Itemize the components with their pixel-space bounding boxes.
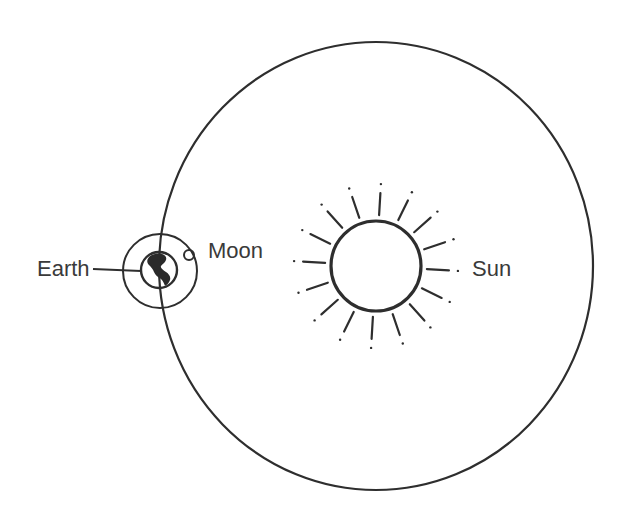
sun-ray — [422, 288, 442, 298]
earth-label: Earth — [37, 256, 90, 281]
sun-ray-dot — [301, 229, 303, 231]
sun-rays — [293, 183, 459, 349]
earth-moon-sun-diagram: Sun Earth Moon — [0, 0, 621, 518]
sun-ray — [393, 314, 400, 335]
sun-ray-dot — [402, 342, 404, 344]
sun-ray-dot — [449, 301, 451, 303]
sun-ray — [352, 197, 359, 218]
sun-ray — [427, 269, 449, 270]
earth-orbit-path — [159, 42, 593, 490]
sun-ray-dot — [293, 260, 295, 262]
sun-ray — [344, 312, 354, 332]
sun-ray — [307, 283, 328, 290]
sun-disc — [331, 221, 421, 311]
sun-ray-dot — [429, 326, 431, 328]
sun-ray-dot — [380, 183, 382, 185]
sun-ray-dot — [411, 191, 413, 193]
sun-ray-dot — [313, 319, 315, 321]
sun-ray — [372, 317, 373, 339]
sun-ray — [398, 200, 408, 220]
sun-ray — [303, 262, 325, 263]
sun-ray-dot — [370, 347, 372, 349]
sun-icon — [293, 183, 459, 349]
sun-ray-dot — [436, 210, 438, 212]
sun-ray — [410, 304, 425, 320]
moon-label: Moon — [208, 238, 263, 263]
sun-ray-dot — [457, 270, 459, 272]
sun-label-group: Sun — [472, 256, 511, 281]
sun-ray — [321, 300, 337, 315]
earth-leader-line — [93, 269, 141, 271]
sun-ray-dot — [348, 187, 350, 189]
sun-ray-dot — [297, 292, 299, 294]
sun-ray-dot — [320, 203, 322, 205]
sun-ray — [424, 242, 445, 249]
sun-ray-dot — [452, 238, 454, 240]
sun-ray — [328, 211, 343, 227]
sun-ray — [310, 234, 330, 244]
sun-ray — [414, 218, 430, 233]
sun-label: Sun — [472, 256, 511, 281]
sun-ray — [379, 193, 380, 215]
sun-ray-dot — [339, 339, 341, 341]
